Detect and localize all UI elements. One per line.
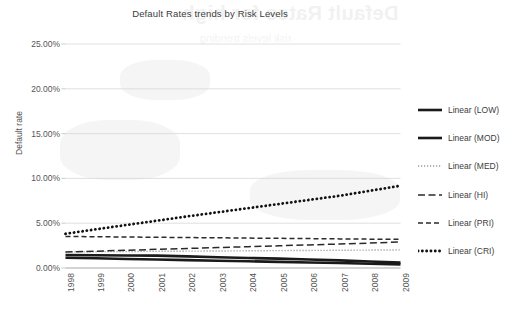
x-axis-tick-label: 2002	[187, 252, 197, 292]
series-line	[66, 250, 401, 252]
legend-item[interactable]: Linear (HI)	[418, 181, 524, 209]
legend-item[interactable]: Linear (MOD)	[418, 124, 524, 152]
legend-swatch-icon	[418, 190, 442, 200]
x-axis-tick-label: 2007	[340, 252, 350, 292]
x-axis-tick-label: 1998	[66, 252, 76, 292]
legend-item[interactable]: Linear (MED)	[418, 152, 524, 180]
gridlines	[62, 44, 401, 268]
x-axis-tick-label: 2000	[126, 252, 136, 292]
x-axis-tick-labels: 1998199920002001200220032004200520062007…	[0, 272, 420, 317]
x-axis-tick-label: 1999	[96, 252, 106, 292]
x-axis-tick-label: 2001	[157, 252, 167, 292]
legend-swatch-icon	[418, 133, 442, 143]
legend-item-label: Linear (PRI)	[448, 218, 494, 228]
x-axis-tick-label: 2006	[309, 252, 319, 292]
series-lines	[66, 186, 401, 265]
legend-swatch-icon	[418, 246, 442, 256]
legend-swatch-icon	[418, 161, 442, 171]
x-axis-tick-label: 2009	[401, 252, 411, 292]
series-line	[66, 236, 401, 239]
legend-item-label: Linear (HI)	[448, 190, 488, 200]
legend-item-label: Linear (MOD)	[448, 133, 499, 143]
legend-item-label: Linear (CRI)	[448, 246, 494, 256]
x-axis-tick-label: 2004	[248, 252, 258, 292]
x-axis-tick-label: 2005	[279, 252, 289, 292]
x-axis-tick-label: 2003	[218, 252, 228, 292]
legend-item-label: Linear (MED)	[448, 161, 499, 171]
chart-legend: Linear (LOW)Linear (MOD)Linear (MED)Line…	[418, 96, 524, 265]
x-axis-tick-label: 2008	[370, 252, 380, 292]
legend-swatch-icon	[418, 105, 442, 115]
legend-item[interactable]: Linear (CRI)	[418, 237, 524, 265]
series-line	[66, 186, 401, 234]
legend-item-label: Linear (LOW)	[448, 105, 499, 115]
series-line	[66, 242, 401, 252]
legend-item[interactable]: Linear (LOW)	[418, 96, 524, 124]
chart-container: Default Rates trends by Risk Levels 25.0…	[0, 0, 524, 317]
legend-item[interactable]: Linear (PRI)	[418, 209, 524, 237]
legend-swatch-icon	[418, 218, 442, 228]
